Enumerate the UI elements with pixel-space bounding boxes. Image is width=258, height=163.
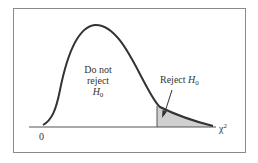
h0-text: H0 — [78, 86, 118, 101]
x-tick-zero: 0 — [39, 131, 44, 142]
x-axis-label: χ2 — [219, 121, 227, 134]
do-not-text: Do not — [78, 64, 118, 75]
reject-text: reject — [78, 75, 118, 86]
reject-h0-label: Reject H0 — [160, 74, 199, 89]
do-not-reject-label: Do not reject H0 — [78, 64, 118, 101]
